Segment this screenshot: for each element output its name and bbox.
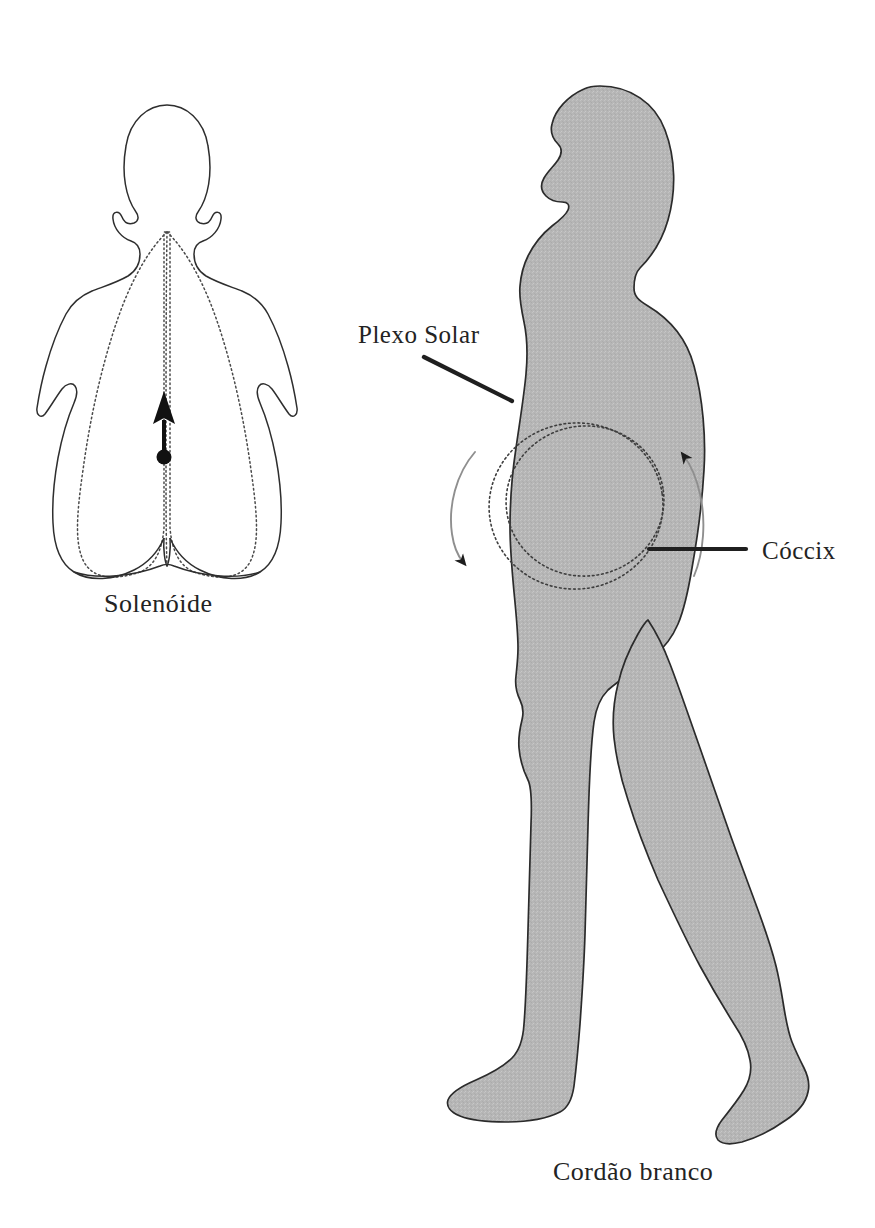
- solenoid-caption: Solenóide: [104, 589, 213, 618]
- origin-dot: [157, 450, 172, 465]
- coccix-label: Cóccix: [762, 537, 836, 564]
- plexo-solar-label: Plexo Solar: [358, 321, 480, 348]
- cordao-branco-caption: Cordão branco: [553, 1157, 713, 1186]
- anatomy-energy-diagram: Solenóide Plexo Solar Cóccix Cordão bran: [0, 0, 875, 1228]
- diagram-canvas: Solenóide Plexo Solar Cóccix Cordão bran: [0, 0, 875, 1228]
